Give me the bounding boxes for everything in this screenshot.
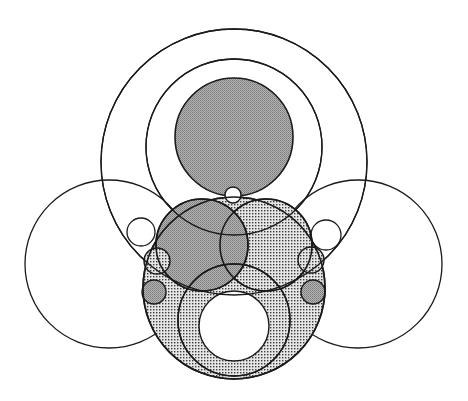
right-small-dark — [301, 280, 325, 304]
left-small-white — [127, 218, 155, 246]
left-small-dark — [142, 280, 166, 304]
circles-diagram — [0, 0, 468, 401]
diagram-canvas — [0, 0, 468, 401]
top-dark-circle — [175, 78, 293, 196]
right-small-white — [311, 220, 341, 250]
filled-circles — [25, 29, 442, 379]
tiny-top-circle — [225, 187, 241, 203]
center-hole — [199, 291, 269, 361]
